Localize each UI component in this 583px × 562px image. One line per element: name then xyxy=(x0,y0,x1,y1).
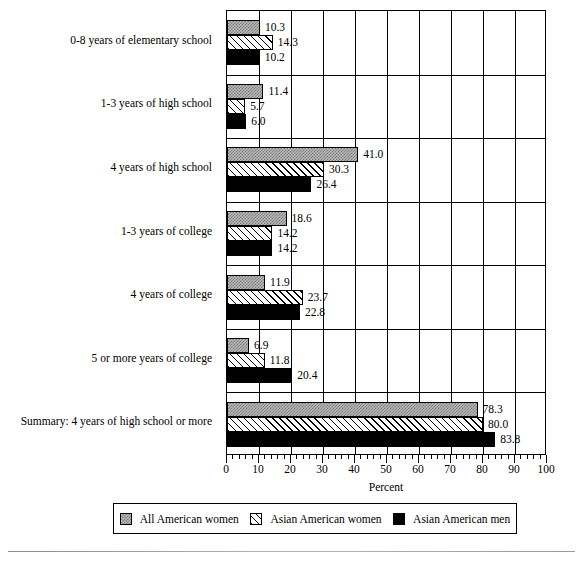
bar-3-1 xyxy=(227,226,272,241)
category-separator xyxy=(227,202,545,203)
x-tick-label: 0 xyxy=(223,463,229,475)
x-tick-major xyxy=(482,455,483,463)
category-label: 4 years of high school xyxy=(0,161,218,173)
legend-label: Asian American women xyxy=(270,513,381,525)
x-tick-major xyxy=(322,455,323,463)
x-tick-major xyxy=(418,455,419,463)
bar-5-1 xyxy=(227,353,265,368)
legend-item: All American women xyxy=(120,513,239,525)
x-axis-ticks xyxy=(226,455,546,463)
x-tick-minor xyxy=(245,455,246,459)
bar-value-label: 14.3 xyxy=(278,35,298,50)
x-tick-label: 70 xyxy=(444,463,456,475)
x-tick-minor xyxy=(412,455,413,459)
bar-value-label: 30.3 xyxy=(329,162,349,177)
bar-5-0 xyxy=(227,338,249,353)
x-tick-minor xyxy=(527,455,528,459)
x-tick-minor xyxy=(316,455,317,459)
x-tick-label: 60 xyxy=(412,463,424,475)
bar-value-label: 41.0 xyxy=(363,147,383,162)
x-tick-label: 20 xyxy=(284,463,296,475)
x-tick-minor xyxy=(463,455,464,459)
bar-4-2 xyxy=(227,305,300,320)
bar-value-label: 14.2 xyxy=(277,241,297,256)
x-tick-minor xyxy=(264,455,265,459)
bar-value-label: 80.0 xyxy=(488,417,508,432)
x-tick-minor xyxy=(271,455,272,459)
x-tick-minor xyxy=(508,455,509,459)
x-tick-minor xyxy=(424,455,425,459)
bar-2-0 xyxy=(227,147,358,162)
category-axis-labels: 0-8 years of elementary school1-3 years … xyxy=(0,10,218,455)
bar-value-label: 23.7 xyxy=(308,290,328,305)
category-separator xyxy=(227,329,545,330)
category-separator xyxy=(227,138,545,139)
bar-0-0 xyxy=(227,20,260,35)
chart-legend: All American womenAsian American womenAs… xyxy=(113,503,517,534)
x-tick-minor xyxy=(533,455,534,459)
vertical-gridline xyxy=(419,11,420,454)
x-tick-minor xyxy=(296,455,297,459)
bar-value-label: 6.0 xyxy=(251,114,265,129)
legend-item: Asian American women xyxy=(250,513,381,525)
legend-swatch-icon xyxy=(393,513,405,525)
vertical-gridline xyxy=(451,11,452,454)
bar-1-2 xyxy=(227,114,246,129)
x-tick-minor xyxy=(456,455,457,459)
bar-value-label: 6.9 xyxy=(254,338,268,353)
bar-value-label: 20.4 xyxy=(297,368,317,383)
x-tick-minor xyxy=(399,455,400,459)
x-tick-minor xyxy=(341,455,342,459)
bar-0-1 xyxy=(227,35,273,50)
bar-2-1 xyxy=(227,162,324,177)
x-tick-minor xyxy=(232,455,233,459)
x-axis-title: Percent xyxy=(226,481,546,493)
bar-1-0 xyxy=(227,84,263,99)
x-tick-minor xyxy=(405,455,406,459)
bar-value-label: 14.2 xyxy=(277,226,297,241)
category-label: 1-3 years of high school xyxy=(0,97,218,109)
bar-value-label: 18.6 xyxy=(292,211,312,226)
x-tick-major xyxy=(290,455,291,463)
x-tick-major xyxy=(258,455,259,463)
x-tick-minor xyxy=(373,455,374,459)
x-tick-label: 10 xyxy=(252,463,264,475)
x-tick-minor xyxy=(488,455,489,459)
bar-3-0 xyxy=(227,211,287,226)
vertical-gridline xyxy=(355,11,356,454)
x-axis-tick-labels: 0102030405060708090100 xyxy=(226,463,546,479)
bar-value-label: 5.7 xyxy=(250,99,264,114)
bar-3-2 xyxy=(227,241,272,256)
chart-plot-area: 10.314.310.211.45.76.041.030.326.418.614… xyxy=(226,10,546,455)
x-tick-minor xyxy=(501,455,502,459)
x-tick-major xyxy=(354,455,355,463)
category-separator xyxy=(227,392,545,393)
x-tick-label: 100 xyxy=(537,463,554,475)
bar-value-label: 22.8 xyxy=(305,305,325,320)
x-tick-minor xyxy=(277,455,278,459)
category-label: 4 years of college xyxy=(0,288,218,300)
bar-value-label: 11.8 xyxy=(270,353,290,368)
bar-4-0 xyxy=(227,275,265,290)
x-tick-minor xyxy=(495,455,496,459)
plot-inner: 10.314.310.211.45.76.041.030.326.418.614… xyxy=(227,11,545,454)
x-tick-minor xyxy=(348,455,349,459)
x-tick-minor xyxy=(431,455,432,459)
x-tick-label: 90 xyxy=(508,463,520,475)
bar-value-label: 11.9 xyxy=(270,275,290,290)
x-tick-minor xyxy=(392,455,393,459)
page-divider-rule xyxy=(8,551,575,552)
category-label: Summary: 4 years of high school or more xyxy=(0,415,218,427)
x-tick-label: 50 xyxy=(380,463,392,475)
bar-6-1 xyxy=(227,417,483,432)
bar-0-2 xyxy=(227,50,260,65)
x-tick-minor xyxy=(284,455,285,459)
bar-value-label: 83.8 xyxy=(500,432,520,447)
x-tick-major xyxy=(226,455,227,463)
bar-6-2 xyxy=(227,432,495,447)
x-tick-major xyxy=(514,455,515,463)
category-separator xyxy=(227,75,545,76)
x-tick-major xyxy=(546,455,547,463)
x-tick-minor xyxy=(335,455,336,459)
vertical-gridline xyxy=(515,11,516,454)
